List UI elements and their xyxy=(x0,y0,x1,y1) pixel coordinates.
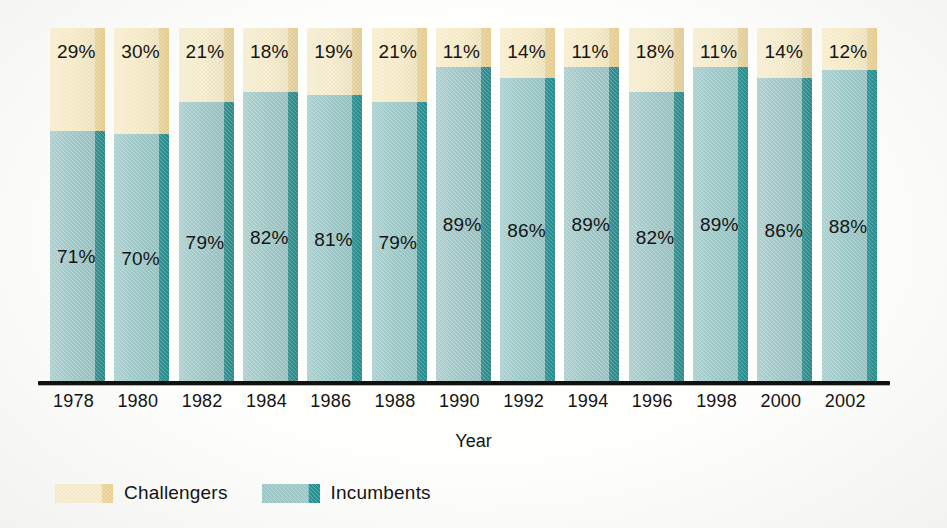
x-axis-title: Year xyxy=(0,431,947,452)
bar-segment-challengers: 29% xyxy=(50,28,105,131)
bar-segment-challengers: 11% xyxy=(564,28,619,67)
bar-segment-incumbents: 71% xyxy=(50,131,105,382)
bar-segment-incumbents: 81% xyxy=(307,95,362,382)
bar-segment-incumbents: 86% xyxy=(500,78,555,382)
bar-value-label-challengers: 18% xyxy=(250,42,289,61)
bar-segment-incumbents: 89% xyxy=(693,67,748,382)
bar-segment-challengers: 14% xyxy=(500,28,555,78)
bar-segment-challengers: 11% xyxy=(693,28,748,67)
bar-segment-challengers: 30% xyxy=(114,28,169,134)
stacked-bar: 18%82% xyxy=(243,28,298,382)
bar-value-label-challengers: 12% xyxy=(829,42,868,61)
bar-segment-challengers: 18% xyxy=(243,28,298,92)
legend-item-challengers: Challengers xyxy=(55,482,228,504)
bar-segment-incumbents: 88% xyxy=(822,70,877,382)
bar-segment-incumbents: 86% xyxy=(757,78,812,382)
bar-segment-challengers: 14% xyxy=(757,28,812,78)
x-tick-label: 1982 xyxy=(175,392,230,410)
x-tick-label: 1994 xyxy=(560,392,615,410)
bar-value-label-incumbents: 89% xyxy=(443,215,482,234)
bar-segment-incumbents: 70% xyxy=(114,134,169,382)
bar-segment-incumbents: 89% xyxy=(436,67,491,382)
bar-value-label-incumbents: 88% xyxy=(829,217,868,236)
bar-value-label-incumbents: 89% xyxy=(700,215,739,234)
bar-value-label-challengers: 19% xyxy=(314,42,353,61)
bar-value-label-challengers: 21% xyxy=(186,42,225,61)
plot-area: 29%71%30%70%21%79%18%82%19%81%21%79%11%8… xyxy=(50,28,886,382)
legend-swatch-challengers xyxy=(55,484,113,503)
bar-value-label-incumbents: 70% xyxy=(121,249,160,268)
stacked-bar: 29%71% xyxy=(50,28,105,382)
stacked-bar: 11%89% xyxy=(564,28,619,382)
legend-swatch-incumbents xyxy=(262,484,320,503)
bar-value-label-challengers: 14% xyxy=(507,42,546,61)
legend-item-incumbents: Incumbents xyxy=(262,482,431,504)
x-tick-label: 1998 xyxy=(689,392,744,410)
x-tick-label: 1990 xyxy=(432,392,487,410)
bar-segment-challengers: 21% xyxy=(372,28,427,102)
bar-group: 12%88% xyxy=(822,28,877,382)
bar-group: 11%89% xyxy=(436,28,491,382)
bar-value-label-challengers: 11% xyxy=(700,42,737,61)
stacked-bar-chart: 29%71%30%70%21%79%18%82%19%81%21%79%11%8… xyxy=(0,0,947,528)
bar-value-label-challengers: 30% xyxy=(121,42,160,61)
bar-segment-challengers: 19% xyxy=(307,28,362,95)
stacked-bar: 18%82% xyxy=(629,28,684,382)
bar-segment-incumbents: 79% xyxy=(179,102,234,382)
bar-value-label-challengers: 29% xyxy=(57,42,96,61)
bar-value-label-incumbents: 86% xyxy=(507,220,546,239)
bar-segment-challengers: 11% xyxy=(436,28,491,67)
bar-group: 18%82% xyxy=(243,28,298,382)
bar-group: 21%79% xyxy=(372,28,427,382)
bar-group: 30%70% xyxy=(114,28,169,382)
stacked-bar: 19%81% xyxy=(307,28,362,382)
stacked-bar: 14%86% xyxy=(757,28,812,382)
chart-legend: Challengers Incumbents xyxy=(55,482,431,504)
x-tick-label: 1984 xyxy=(239,392,294,410)
x-tick-label: 2002 xyxy=(818,392,873,410)
stacked-bar: 14%86% xyxy=(500,28,555,382)
bar-value-label-incumbents: 89% xyxy=(571,215,610,234)
bar-value-label-challengers: 21% xyxy=(379,42,418,61)
stacked-bar: 11%89% xyxy=(693,28,748,382)
bar-group: 19%81% xyxy=(307,28,362,382)
bar-value-label-incumbents: 82% xyxy=(636,227,675,246)
stacked-bar: 21%79% xyxy=(179,28,234,382)
bar-group: 14%86% xyxy=(500,28,555,382)
bar-value-label-incumbents: 71% xyxy=(57,247,96,266)
stacked-bar: 30%70% xyxy=(114,28,169,382)
bar-value-label-challengers: 18% xyxy=(636,42,675,61)
bar-value-label-incumbents: 82% xyxy=(250,227,289,246)
bar-value-label-challengers: 14% xyxy=(764,42,803,61)
x-tick-label: 1980 xyxy=(110,392,165,410)
bar-segment-incumbents: 79% xyxy=(372,102,427,382)
bar-group: 14%86% xyxy=(757,28,812,382)
stacked-bar: 12%88% xyxy=(822,28,877,382)
x-tick-label: 1988 xyxy=(368,392,423,410)
bar-group: 29%71% xyxy=(50,28,105,382)
bar-segment-incumbents: 82% xyxy=(629,92,684,382)
legend-label-incumbents: Incumbents xyxy=(331,482,431,504)
bar-segment-challengers: 18% xyxy=(629,28,684,92)
bar-segment-incumbents: 82% xyxy=(243,92,298,382)
x-axis-baseline xyxy=(38,381,890,385)
bar-value-label-incumbents: 81% xyxy=(314,229,353,248)
stacked-bar: 21%79% xyxy=(372,28,427,382)
bar-segment-challengers: 12% xyxy=(822,28,877,70)
stacked-bar: 11%89% xyxy=(436,28,491,382)
bar-group: 11%89% xyxy=(564,28,619,382)
bar-group: 11%89% xyxy=(693,28,748,382)
x-tick-label: 1996 xyxy=(625,392,680,410)
bar-value-label-challengers: 11% xyxy=(443,42,480,61)
x-tick-label: 1978 xyxy=(46,392,101,410)
bar-value-label-incumbents: 79% xyxy=(186,233,225,252)
bar-value-label-incumbents: 86% xyxy=(764,220,803,239)
bar-segment-challengers: 21% xyxy=(179,28,234,102)
bar-segment-incumbents: 89% xyxy=(564,67,619,382)
x-tick-label: 2000 xyxy=(753,392,808,410)
legend-label-challengers: Challengers xyxy=(124,482,228,504)
x-tick-label: 1992 xyxy=(496,392,551,410)
x-tick-label: 1986 xyxy=(303,392,358,410)
bar-group: 21%79% xyxy=(179,28,234,382)
bar-group: 18%82% xyxy=(629,28,684,382)
